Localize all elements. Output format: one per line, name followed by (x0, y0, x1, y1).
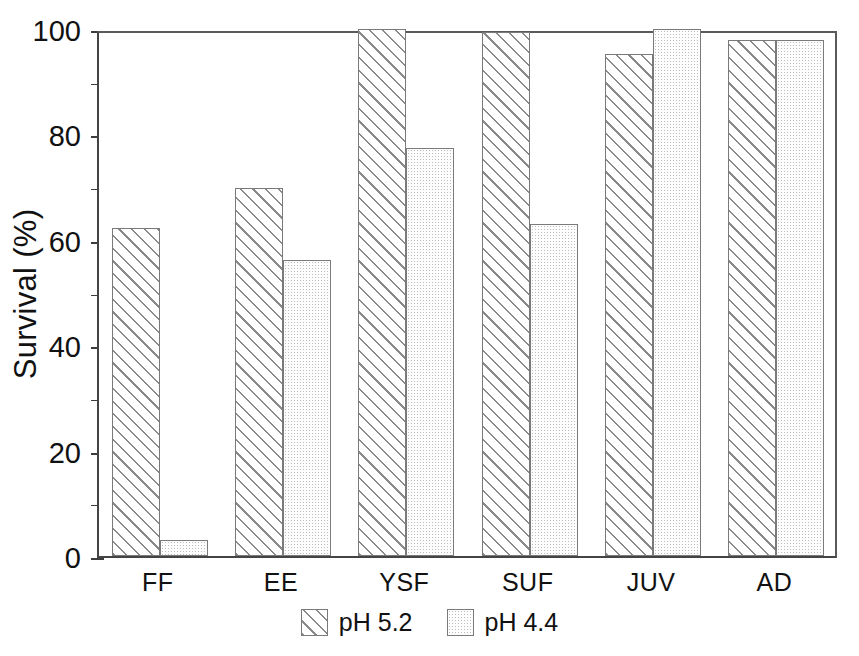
y-tick-mark (91, 558, 104, 560)
y-tick-label: 80 (49, 120, 81, 153)
x-tick-label-juv: JUV (627, 568, 676, 597)
plot-area (97, 31, 837, 558)
legend-label: pH 5.2 (339, 608, 413, 637)
bar-suf-ph-4-4 (530, 224, 578, 556)
bar-ee-ph-4-4 (283, 260, 331, 556)
bar-ad-ph-5-2 (728, 40, 776, 556)
legend-item-ph-4-4: pH 4.4 (447, 608, 559, 637)
y-tick-label: 40 (49, 331, 81, 364)
y-axis-title: Survival (%) (8, 174, 44, 414)
legend-item-ph-5-2: pH 5.2 (301, 608, 413, 637)
bar-chart-figure: Survival (%) 020406080100 FFEEYSFSUFJUVA… (0, 0, 859, 656)
legend-label: pH 4.4 (485, 608, 559, 637)
bar-ff-ph-5-2 (112, 228, 160, 556)
y-tick-label: 100 (33, 15, 81, 48)
bar-ysf-ph-5-2 (358, 29, 406, 556)
bar-ee-ph-5-2 (235, 188, 283, 556)
chart-legend: pH 5.2pH 4.4 (0, 608, 859, 637)
x-tick-label-ff: FF (142, 568, 174, 597)
bar-ysf-ph-4-4 (406, 148, 454, 556)
x-tick-label-ad: AD (756, 568, 792, 597)
bar-ff-ph-4-4 (160, 540, 208, 556)
bars-container (99, 33, 835, 556)
legend-swatch-hatch-icon (301, 609, 328, 636)
legend-swatch-stipple-icon (447, 609, 474, 636)
bar-ad-ph-4-4 (776, 40, 824, 556)
bar-juv-ph-4-4 (653, 29, 701, 556)
y-tick-label: 20 (49, 436, 81, 469)
x-tick-label-ee: EE (264, 568, 298, 597)
bar-suf-ph-5-2 (482, 32, 530, 556)
y-tick-label: 60 (49, 225, 81, 258)
bar-juv-ph-5-2 (605, 54, 653, 556)
y-tick-label: 0 (65, 542, 81, 575)
x-tick-label-ysf: YSF (379, 568, 429, 597)
x-tick-label-suf: SUF (502, 568, 554, 597)
